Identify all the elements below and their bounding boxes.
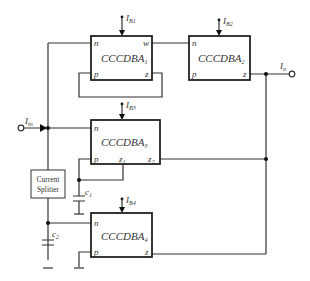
- pin-p: p: [93, 154, 99, 164]
- input-label: Iin: [24, 116, 33, 127]
- bias-b2: IB2: [216, 16, 233, 36]
- junction-dot: [77, 178, 81, 182]
- capacitor-c1: c1: [73, 187, 92, 201]
- pin-p: p: [93, 247, 99, 257]
- capacitor-c2-label: c2: [52, 229, 59, 240]
- junction-dot: [264, 72, 268, 76]
- bias-b2-label: IB2: [222, 16, 233, 27]
- bias-b3-label: IB3: [125, 100, 136, 111]
- block-cccdba-1: n w p z CCCDBA1: [91, 36, 152, 80]
- pin-z: z: [144, 69, 149, 79]
- wire-b4-p-ground: [79, 252, 91, 267]
- bias-b4: IB4: [119, 195, 136, 213]
- block-cccdba-2: n p z CCCDBA2: [189, 36, 250, 80]
- pin-w: w: [143, 38, 149, 48]
- bias-b4-label: IB4: [125, 195, 136, 206]
- pin-p: p: [191, 69, 197, 79]
- pin-n: n: [94, 218, 99, 228]
- capacitor-c1-label: c1: [85, 187, 92, 198]
- output-label: Io: [279, 61, 286, 72]
- block-title: CCCDBA2: [198, 52, 244, 65]
- pin-n: n: [192, 38, 197, 48]
- block-title: CCCDBA4: [101, 230, 147, 243]
- bias-b1: IB1: [119, 13, 136, 36]
- splitter-label-1: Current: [37, 175, 61, 184]
- pin-p: p: [93, 69, 99, 79]
- junction-dot: [46, 221, 50, 225]
- splitter-label-2: Splitter: [37, 185, 60, 194]
- input-terminal: Iin: [18, 116, 47, 132]
- current-splitter: Current Splitter: [31, 170, 65, 198]
- pin-n: n: [94, 38, 99, 48]
- block-cccdba-4: n p z CCCDBA4: [91, 213, 152, 257]
- bias-b1-label: IB1: [125, 13, 136, 24]
- block-title: CCCDBA3: [101, 136, 147, 149]
- pin-z: z: [242, 69, 247, 79]
- pin-z: z: [144, 247, 149, 257]
- wire-b3-p: [79, 159, 91, 180]
- bias-b3: IB3: [119, 100, 136, 120]
- input-arrow-icon: [40, 124, 47, 132]
- circuit-diagram: IB1 IB2 IB3 IB4 n w p z CCCDBA1 n p z CC…: [0, 0, 310, 281]
- junction-dot: [264, 157, 268, 161]
- capacitor-c2: c2: [42, 229, 59, 245]
- block-cccdba-3: n p z1 z2 CCCDBA3: [91, 120, 160, 165]
- block-title: CCCDBA1: [101, 52, 147, 65]
- pin-n: n: [94, 123, 99, 133]
